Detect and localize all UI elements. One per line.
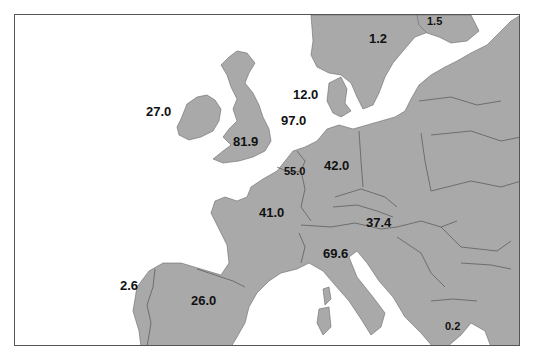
label-north-sea-lower: 97.0 [281, 114, 306, 127]
label-italy: 69.6 [323, 247, 348, 260]
denmark-shape [327, 77, 351, 117]
label-benelux: 55.0 [284, 166, 305, 177]
label-germany: 42.0 [324, 159, 349, 172]
label-greece: 0.2 [445, 321, 460, 332]
corsica-shape [323, 287, 331, 305]
label-north-sea-upper: 12.0 [293, 88, 318, 101]
label-uk: 81.9 [233, 135, 258, 148]
label-spain: 26.0 [191, 294, 216, 307]
label-ireland: 27.0 [146, 105, 171, 118]
ireland-shape [177, 95, 221, 140]
map-frame: 27.0 81.9 12.0 97.0 55.0 42.0 1.2 1.5 41… [14, 14, 520, 346]
label-france: 41.0 [259, 206, 284, 219]
sardinia-shape [317, 307, 331, 335]
europe-map [15, 15, 520, 346]
label-austria: 37.4 [366, 216, 391, 229]
label-portugal: 2.6 [120, 279, 138, 292]
label-sweden: 1.2 [369, 32, 387, 45]
label-finland: 1.5 [427, 16, 442, 27]
